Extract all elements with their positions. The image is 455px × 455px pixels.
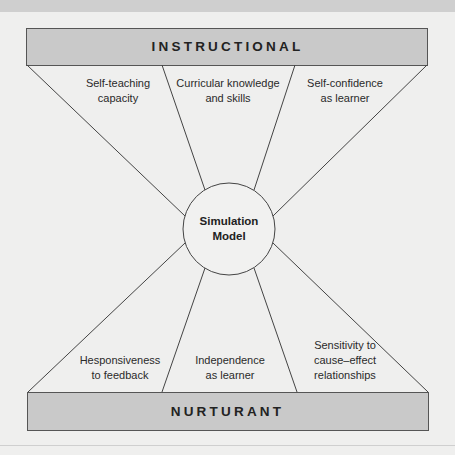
label-line: Self-teaching bbox=[68, 76, 168, 91]
label-line: Self-confidence bbox=[295, 76, 395, 91]
label-line: Hesponsiveness bbox=[70, 353, 170, 368]
label-line: to feedback bbox=[70, 368, 170, 383]
center-label-line1: Simulation bbox=[183, 214, 275, 229]
center-label-line2: Model bbox=[183, 229, 275, 244]
label-line: Curricular knowledge bbox=[168, 76, 288, 91]
center-label: Simulation Model bbox=[183, 214, 275, 244]
label-line: as learner bbox=[295, 91, 395, 106]
label-curricular-knowledge: Curricular knowledge and skills bbox=[168, 76, 288, 106]
label-line: Independence bbox=[180, 353, 280, 368]
instructional-title: INSTRUCTIONAL bbox=[27, 39, 428, 54]
label-line: as learner bbox=[180, 368, 280, 383]
label-line: and skills bbox=[168, 91, 288, 106]
label-responsiveness-to-feedback: Hesponsiveness to feedback bbox=[70, 353, 170, 383]
label-line: cause–effect bbox=[295, 353, 395, 368]
label-independence-as-learner: Independence as learner bbox=[180, 353, 280, 383]
label-self-teaching-capacity: Self-teaching capacity bbox=[68, 76, 168, 106]
label-line: Sensitivity to bbox=[295, 338, 395, 353]
label-sensitivity-cause-effect: Sensitivity to cause–effect relationship… bbox=[295, 338, 395, 383]
label-self-confidence: Self-confidence as learner bbox=[295, 76, 395, 106]
label-line: capacity bbox=[68, 91, 168, 106]
label-line: relationships bbox=[295, 368, 395, 383]
nurturant-title: NURTURANT bbox=[27, 404, 428, 419]
